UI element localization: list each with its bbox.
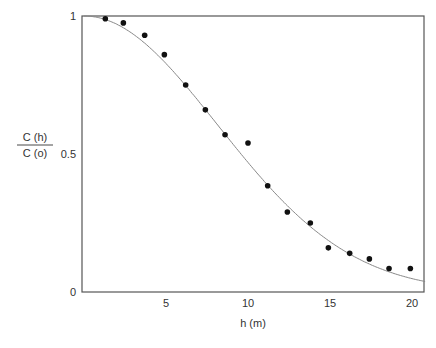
data-point: [367, 256, 373, 262]
plot-frame: [82, 16, 424, 292]
chart: 00.51 5101520 h (m) C (h) C (o): [0, 0, 436, 348]
x-axis-label: h (m): [240, 317, 266, 329]
data-point: [203, 107, 209, 113]
data-point: [222, 132, 228, 138]
data-point: [162, 52, 168, 58]
data-point: [326, 245, 332, 251]
data-point: [103, 16, 109, 22]
data-point: [408, 266, 414, 272]
x-axis-ticks: 5101520: [163, 297, 418, 309]
data-point: [142, 33, 148, 39]
y-axis-label-numerator: C (h): [23, 131, 47, 143]
y-tick-label: 0: [70, 286, 76, 298]
data-point: [386, 266, 392, 272]
y-tick-label: 0.5: [61, 148, 76, 160]
y-tick-label: 1: [70, 10, 76, 22]
data-points: [103, 16, 414, 271]
y-axis-label-denominator: C (o): [23, 147, 47, 159]
data-point: [285, 209, 291, 215]
data-point: [347, 251, 353, 257]
data-point: [121, 20, 127, 26]
y-axis-ticks: 00.51: [61, 10, 76, 298]
fitted-curve: [84, 16, 425, 282]
data-point: [183, 82, 189, 88]
x-tick-label: 15: [324, 297, 336, 309]
data-point: [245, 140, 251, 146]
x-tick-label: 5: [163, 297, 169, 309]
data-point: [265, 183, 271, 189]
y-axis-label: C (h) C (o): [17, 131, 53, 159]
x-tick-label: 20: [406, 297, 418, 309]
x-tick-label: 10: [242, 297, 254, 309]
data-point: [308, 220, 314, 226]
